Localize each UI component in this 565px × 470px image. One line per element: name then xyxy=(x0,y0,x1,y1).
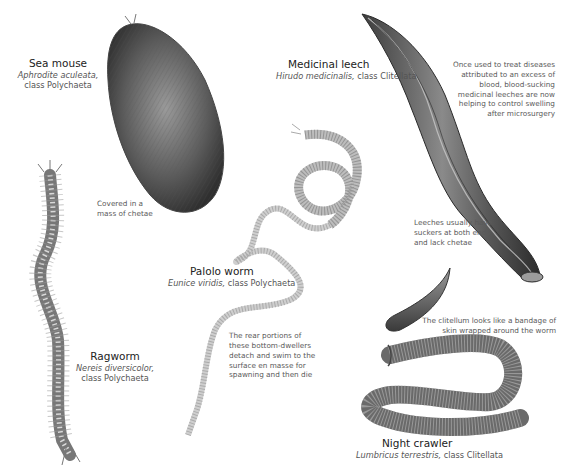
note-line: detach and swim to the xyxy=(229,351,329,361)
note-line: surface en masse for xyxy=(229,361,329,371)
palolo-worm-label: Palolo worm Eunice viridis, class Polych… xyxy=(168,265,328,288)
note-line: Covered in a xyxy=(97,199,167,209)
medicinal-leech-note-top: Once used to treat diseases attributed t… xyxy=(440,60,555,119)
ragworm-class: class Polychaeta xyxy=(70,373,160,383)
note-line: mass of chetae xyxy=(97,209,167,219)
sea-mouse-class: class Polychaeta xyxy=(8,80,108,90)
ragworm-name: Ragworm xyxy=(70,350,160,363)
note-line: and lack chetae xyxy=(414,238,514,248)
sea-mouse-scientific-name: Aphrodite aculeata, xyxy=(18,70,99,80)
note-line: medicinal leeches are now xyxy=(440,90,555,100)
medicinal-leech-scientific-name: Hirudo medicinalis, xyxy=(276,71,355,81)
night-crawler-class: class Clitellata xyxy=(444,450,503,460)
medicinal-leech-class: class Clitellata xyxy=(357,71,416,81)
ragworm-illustration xyxy=(38,160,80,465)
note-line: these bottom-dwellers xyxy=(229,341,329,351)
sea-mouse-note: Covered in a mass of chetae xyxy=(97,199,167,219)
note-line: after microsurgery xyxy=(440,109,555,119)
medicinal-leech-note-bottom: Leeches usually have suckers at both end… xyxy=(414,218,514,248)
palolo-worm-name: Palolo worm xyxy=(168,265,328,278)
ragworm-scientific-name: Nereis diversicolor, xyxy=(76,363,154,373)
night-crawler-note: The clitellum looks like a bandage of sk… xyxy=(400,316,556,336)
note-line: suckers at both ends xyxy=(414,228,514,238)
note-line: skin wrapped around the worm xyxy=(400,326,556,336)
night-crawler-label: Night crawler Lumbricus terrestris, clas… xyxy=(356,437,526,460)
night-crawler-scientific-name: Lumbricus terrestris, xyxy=(356,450,441,460)
medicinal-leech-name: Medicinal leech xyxy=(276,58,426,71)
night-crawler-name: Night crawler xyxy=(356,437,526,450)
sea-mouse-name: Sea mouse xyxy=(8,57,108,70)
note-line: helping to control swelling xyxy=(440,99,555,109)
sea-mouse-illustration xyxy=(108,14,224,212)
note-line: The clitellum looks like a bandage of xyxy=(400,316,556,326)
note-line: The rear portions of xyxy=(229,331,329,341)
palolo-worm-note: The rear portions of these bottom-dwelle… xyxy=(229,331,329,380)
ragworm-label: Ragworm Nereis diversicolor, class Polyc… xyxy=(70,350,160,384)
night-crawler-illustration xyxy=(370,268,520,427)
note-line: blood, blood-sucking xyxy=(440,80,555,90)
note-line: Leeches usually have xyxy=(414,218,514,228)
sea-mouse-label: Sea mouse Aphrodite aculeata, class Poly… xyxy=(8,57,108,91)
note-line: attributed to an excess of xyxy=(440,70,555,80)
note-line: Once used to treat diseases xyxy=(440,60,555,70)
medicinal-leech-label: Medicinal leech Hirudo medicinalis, clas… xyxy=(276,58,426,81)
palolo-worm-scientific-name: Eunice viridis, xyxy=(168,278,225,288)
note-line: spawning and then die xyxy=(229,370,329,380)
palolo-worm-class: class Polychaeta xyxy=(228,278,296,288)
